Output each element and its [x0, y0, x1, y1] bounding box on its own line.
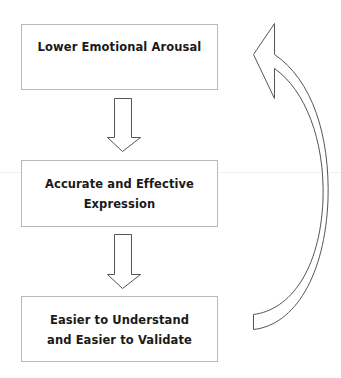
- node-easier-understand-validate: Easier to Understand and Easier to Valid…: [21, 296, 218, 362]
- curved-return-arrow-icon: [254, 24, 329, 330]
- node-label-line-2: Expression: [22, 194, 217, 214]
- node-label-line-1: Easier to Understand: [22, 310, 217, 330]
- down-arrow-icon: [108, 235, 141, 289]
- node-lower-emotional-arousal: Lower Emotional Arousal: [21, 24, 218, 90]
- node-label-line-2: and Easier to Validate: [22, 330, 217, 350]
- node-accurate-effective-expression: Accurate and Effective Expression: [21, 160, 218, 227]
- node-label-line-1: Accurate and Effective: [22, 174, 217, 194]
- node-label: Lower Emotional Arousal: [22, 37, 217, 57]
- down-arrow-icon: [108, 99, 141, 152]
